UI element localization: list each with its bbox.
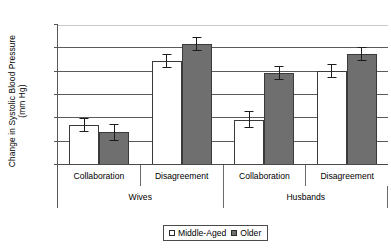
- bar-container: [152, 25, 182, 165]
- y-axis-title-container: Change in Systolic Blood Pressure (mm Hg…: [0, 8, 34, 193]
- bar-group: [58, 25, 141, 165]
- error-bar-stem: [84, 118, 85, 132]
- bar[interactable]: [317, 71, 347, 166]
- legend-label: Middle-Aged: [178, 228, 226, 238]
- error-bar-cap-bottom: [162, 67, 171, 68]
- error-bar-cap-bottom: [80, 131, 89, 132]
- error-bar-cap-top: [327, 64, 336, 65]
- bar-container: [99, 25, 129, 165]
- bar-container: [264, 25, 294, 165]
- supergroup-axis-endcap: [387, 186, 388, 208]
- light-square-icon: [169, 230, 175, 236]
- error-bar-cap-top: [162, 54, 171, 55]
- bar-chart-figure: Change in Systolic Blood Pressure (mm Hg…: [0, 0, 391, 251]
- error-bar-cap-top: [357, 47, 366, 48]
- error-bar: [245, 111, 254, 127]
- bar-group: [306, 25, 389, 165]
- error-bar: [275, 66, 284, 80]
- error-bar-cap-bottom: [110, 140, 119, 141]
- error-bar-cap-top: [245, 111, 254, 112]
- error-bar-cap-bottom: [245, 127, 254, 128]
- plot-area: 024681012: [57, 25, 388, 165]
- error-bar: [357, 47, 366, 61]
- chart-legend: Middle-AgedOlder: [163, 225, 268, 241]
- error-bar: [327, 64, 336, 78]
- error-bar-stem: [361, 47, 362, 61]
- error-bar-stem: [279, 66, 280, 80]
- category-label: Collaboration: [223, 165, 306, 186]
- bar[interactable]: [347, 54, 377, 165]
- error-bar-cap-top: [110, 124, 119, 125]
- dark-square-icon: [231, 230, 237, 236]
- y-axis-title: Change in Systolic Blood Pressure (mm Hg…: [8, 9, 28, 194]
- error-bar-cap-bottom: [192, 50, 201, 51]
- bar-container: [182, 25, 212, 165]
- legend-label: Older: [240, 228, 261, 238]
- category-label: Collaboration: [57, 165, 140, 186]
- bar-container: [234, 25, 264, 165]
- y-axis-title-line2: (mm Hg): [17, 9, 27, 194]
- error-bar-cap-bottom: [327, 77, 336, 78]
- error-bar-cap-top: [275, 66, 284, 67]
- bar[interactable]: [152, 61, 182, 165]
- category-axis: CollaborationDisagreementCollaborationDi…: [57, 165, 388, 186]
- error-bar-stem: [249, 111, 250, 127]
- legend-item[interactable]: Middle-Aged: [169, 228, 226, 238]
- bar[interactable]: [264, 73, 294, 165]
- category-label: Disagreement: [305, 165, 388, 186]
- error-bar: [192, 37, 201, 51]
- supergroup-axis: WivesHusbands: [57, 186, 388, 208]
- supergroup-label: Husbands: [223, 186, 389, 208]
- error-bar: [80, 118, 89, 132]
- error-bar-cap-top: [192, 37, 201, 38]
- bar[interactable]: [182, 44, 212, 165]
- bar-container: [347, 25, 377, 165]
- error-bar-stem: [114, 124, 115, 140]
- error-bar-cap-bottom: [275, 79, 284, 80]
- error-bar-stem: [196, 37, 197, 51]
- error-bar: [162, 54, 171, 68]
- error-bar-cap-bottom: [357, 60, 366, 61]
- error-bar-cap-top: [80, 118, 89, 119]
- bar-container: [317, 25, 347, 165]
- error-bar-stem: [166, 54, 167, 68]
- error-bar: [110, 124, 119, 140]
- category-label: Disagreement: [140, 165, 223, 186]
- bar-groups: [58, 25, 388, 165]
- error-bar-stem: [331, 64, 332, 78]
- legend-item[interactable]: Older: [231, 228, 261, 238]
- bar-group: [223, 25, 306, 165]
- bar-group: [141, 25, 224, 165]
- supergroup-label: Wives: [57, 186, 223, 208]
- bar-container: [69, 25, 99, 165]
